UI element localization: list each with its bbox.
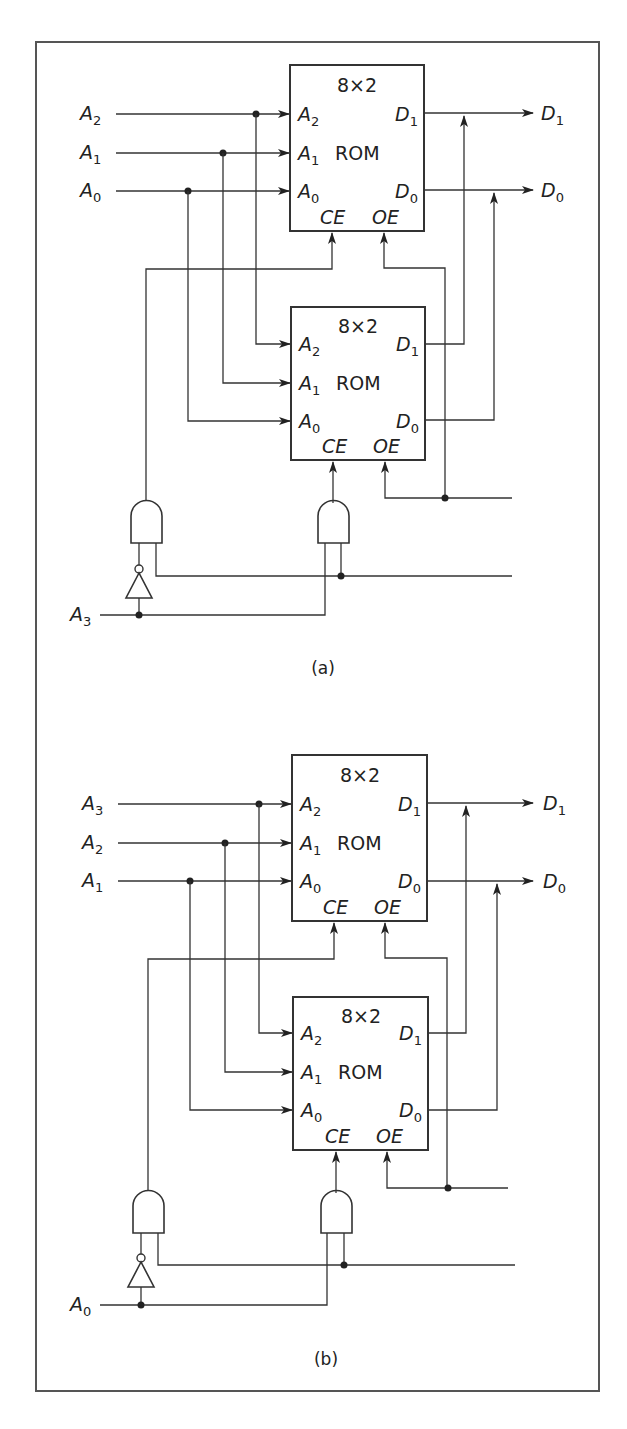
junction-dot xyxy=(341,1262,348,1269)
oe-label: OE xyxy=(372,206,399,228)
inverter-icon xyxy=(128,1262,154,1287)
wire xyxy=(428,884,497,1110)
input-label-b-2: A1 xyxy=(80,869,103,895)
panel-caption: (a) xyxy=(311,658,335,678)
oe-label: OE xyxy=(376,1125,403,1147)
rom-size-label: 8×2 xyxy=(337,74,377,96)
output-label-d1: D1 xyxy=(543,792,566,818)
oe-label: OE xyxy=(374,896,401,918)
and-gate-icon xyxy=(318,500,349,543)
select-input-label: A3 xyxy=(68,603,91,629)
wire xyxy=(158,1233,515,1265)
rom-type-label: ROM xyxy=(337,832,382,854)
input-label-a-0: A2 xyxy=(78,102,101,128)
output-label-d1: D1 xyxy=(541,102,564,128)
and-gate-icon xyxy=(321,1191,352,1234)
figure-frame xyxy=(36,42,599,1391)
and-gate-icon xyxy=(133,1191,164,1234)
ce-label: CE xyxy=(323,896,348,918)
ce-label: CE xyxy=(320,206,345,228)
oe-label: OE xyxy=(373,435,400,457)
wire xyxy=(190,881,292,1110)
ce-label: CE xyxy=(325,1125,350,1147)
junction-dot xyxy=(442,495,449,502)
panel-caption: (b) xyxy=(314,1349,338,1369)
wire xyxy=(100,543,325,615)
rom-size-label: 8×2 xyxy=(340,764,380,786)
input-label-b-0: A3 xyxy=(80,792,103,818)
rom-type-label: ROM xyxy=(335,142,380,164)
wire xyxy=(385,462,512,498)
wire xyxy=(256,114,290,344)
wire xyxy=(425,193,494,420)
junction-dot xyxy=(445,1185,452,1192)
rom-type-label: ROM xyxy=(338,1061,383,1083)
output-label-d0: D0 xyxy=(543,870,566,896)
rom-a-bottom: 8×2 A2 A1 ROM A0 D1 D0 CE OE xyxy=(291,307,425,460)
output-label-d0: D0 xyxy=(541,179,564,205)
rom-expansion-diagram: A2 A1 A0 8×2 A2 A1 ROM A0 D1 D0 CE OE xyxy=(0,0,627,1429)
rom-a-top: 8×2 A2 A1 ROM A0 D1 D0 CE OE xyxy=(290,65,424,231)
panel-a: A2 A1 A0 8×2 A2 A1 ROM A0 D1 D0 CE OE xyxy=(68,65,564,678)
wire xyxy=(100,1233,327,1305)
ce-label: CE xyxy=(322,435,347,457)
rom-b-top: 8×2 A2 A1 ROM A0 D1 D0 CE OE xyxy=(292,755,427,921)
wire xyxy=(259,804,292,1033)
inverter-icon xyxy=(126,573,152,598)
rom-size-label: 8×2 xyxy=(341,1005,381,1027)
input-label-a-1: A1 xyxy=(78,141,101,167)
select-input-label: A0 xyxy=(68,1293,91,1319)
and-gate-icon xyxy=(131,500,162,543)
rom-size-label: 8×2 xyxy=(338,315,378,337)
junction-dot xyxy=(136,612,143,619)
panel-b: A3 A2 A1 8×2 A2 A1 ROM A0 D1 D0 CE OE D1… xyxy=(68,755,566,1369)
input-label-a-2: A0 xyxy=(78,179,101,205)
wire xyxy=(156,543,512,576)
wire xyxy=(188,191,290,421)
input-label-b-1: A2 xyxy=(80,831,103,857)
rom-b-bottom: 8×2 A2 A1 ROM A0 D1 D0 CE OE xyxy=(293,997,428,1150)
junction-dot xyxy=(138,1302,145,1309)
junction-dot xyxy=(338,573,345,580)
rom-type-label: ROM xyxy=(336,372,381,394)
